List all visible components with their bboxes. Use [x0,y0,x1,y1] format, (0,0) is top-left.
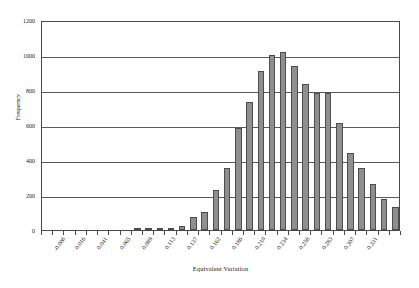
x-tick-mark [187,231,188,235]
x-tick-mark [243,231,244,235]
histogram-bar [224,168,231,230]
x-tick-mark [321,231,322,235]
histogram-chart: Frequency 020040060080010001200 -0.0080.… [0,0,419,288]
x-tick-mark [221,231,222,235]
x-tick-mark [299,231,300,235]
histogram-bar [381,199,388,231]
histogram-bar [201,212,208,230]
x-tick-mark [164,231,165,235]
y-tick-label: 600 [11,123,35,129]
histogram-bar [280,52,287,231]
plot-area [41,21,400,231]
histogram-bar [291,66,298,230]
x-tick-label: -0.008 [52,236,67,253]
x-tick-label: 0.065 [119,236,132,251]
x-tick-label: 0.283 [321,236,334,251]
x-tick-mark [310,231,311,235]
x-tick-mark [52,231,53,235]
x-tick-label: 0.041 [96,236,109,251]
x-tick-mark [232,231,233,235]
histogram-bar [336,123,343,230]
x-tick-mark [97,231,98,235]
histogram-bar [145,228,152,230]
histogram-bar [134,228,141,230]
histogram-bar [213,190,220,230]
histogram-bar [347,153,354,230]
histogram-bar [168,228,175,230]
x-tick-mark [142,231,143,235]
histogram-bar [392,207,399,230]
x-tick-mark [176,231,177,235]
x-tick-mark [389,231,390,235]
x-tick-mark [120,231,121,235]
x-tick-label: 0.234 [276,236,289,251]
y-tick-label: 400 [11,158,35,164]
histogram-bar [302,84,309,230]
x-tick-mark [75,231,76,235]
y-tick-label: 1200 [11,18,35,24]
x-tick-mark [41,231,42,235]
histogram-bar [157,228,164,230]
y-tick-label: 800 [11,88,35,94]
x-axis-ticks [41,231,400,235]
x-tick-label: 0.331 [365,236,378,251]
x-tick-mark [378,231,379,235]
x-tick-label: 0.307 [343,236,356,251]
x-tick-mark [254,231,255,235]
x-tick-mark [366,231,367,235]
x-tick-mark [288,231,289,235]
x-tick-label: 0.016 [74,236,87,251]
x-tick-label: 0.186 [231,236,244,251]
x-tick-label: 0.113 [163,236,176,251]
x-tick-mark [108,231,109,235]
x-axis-title: Equivalent Variation [41,265,400,272]
y-tick-label: 200 [11,193,35,199]
y-tick-label: 0 [11,228,35,234]
histogram-bar [179,226,186,230]
histogram-bar [235,128,242,230]
x-tick-mark [344,231,345,235]
x-tick-label: 0.210 [253,236,266,251]
x-tick-mark [400,231,401,235]
x-tick-mark [209,231,210,235]
x-tick-label: 0.258 [298,236,311,251]
y-tick-label: 1000 [11,53,35,59]
x-tick-mark [153,231,154,235]
histogram-bar [325,93,332,230]
x-tick-mark [277,231,278,235]
x-tick-mark [86,231,87,235]
x-tick-mark [333,231,334,235]
x-tick-label: 0.137 [186,236,199,251]
x-tick-label: 0.089 [141,236,154,251]
histogram-bar [269,55,276,230]
x-tick-mark [265,231,266,235]
histogram-bar [190,217,197,230]
x-axis-tick-labels: -0.0080.0160.0410.0650.0890.1130.1370.16… [41,236,400,262]
histogram-bar [258,71,265,230]
histogram-bar [314,93,321,230]
x-tick-label: 0.162 [208,236,221,251]
y-axis-title: Frequency [15,67,21,147]
histogram-bar [246,102,253,230]
x-tick-mark [198,231,199,235]
x-tick-mark [63,231,64,235]
bars-layer [42,22,399,230]
x-tick-mark [355,231,356,235]
histogram-bar [370,184,377,230]
histogram-bar [358,168,365,230]
x-tick-mark [131,231,132,235]
